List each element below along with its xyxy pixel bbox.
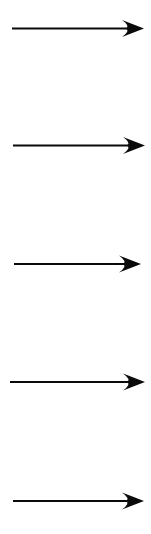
arrow-shaft [12,27,129,29]
arrow-shaft [10,381,130,383]
arrow-diagram [0,0,151,534]
arrow-canvas [0,0,151,534]
arrow-shaft [13,144,130,146]
arrow-shaft [14,263,126,265]
arrow-shaft [13,500,129,502]
